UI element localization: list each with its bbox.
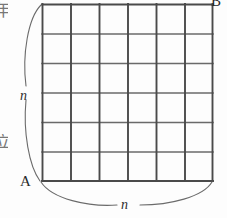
bottom-brace-right-arc [140, 182, 212, 205]
vertex-label-b: B [211, 0, 221, 9]
margin-glyph-top: 年 [0, 2, 8, 24]
left-brace-lower-arc [25, 100, 40, 181]
margin-glyph-middle: 立 [0, 134, 8, 156]
vertex-label-a: A [20, 174, 31, 189]
dimension-label-bottom: n [121, 198, 128, 212]
left-dimension-brace [25, 5, 41, 181]
grid-figure: A B n n 年 · 立 [0, 0, 227, 218]
dimension-label-left: n [20, 89, 27, 103]
figure-canvas [0, 0, 227, 218]
margin-glyph-dot: · [0, 116, 6, 128]
bottom-brace-left-arc [41, 182, 117, 205]
left-brace-upper-arc [25, 5, 41, 86]
